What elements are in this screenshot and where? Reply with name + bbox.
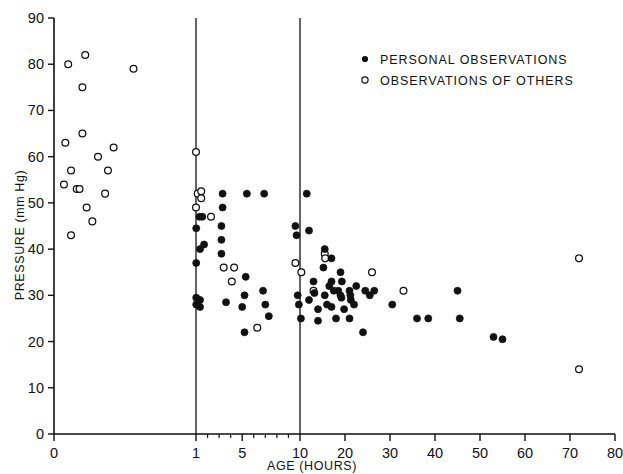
data-point-personal bbox=[311, 290, 318, 297]
data-point-personal bbox=[218, 250, 225, 257]
data-point-other bbox=[298, 269, 305, 276]
x-tick-label: 5 bbox=[238, 445, 246, 461]
legend: PERSONAL OBSERVATIONS OBSERVATIONS OF OT… bbox=[362, 53, 574, 88]
y-tick-label: 90 bbox=[28, 10, 44, 26]
data-point-other bbox=[83, 204, 90, 211]
y-axis-ticks: 0102030405060708090 bbox=[28, 10, 54, 442]
data-point-other bbox=[61, 181, 68, 188]
y-tick-label: 80 bbox=[28, 56, 44, 72]
y-tick-label: 60 bbox=[28, 149, 44, 165]
data-point-other bbox=[369, 269, 376, 276]
data-point-personal bbox=[243, 190, 250, 197]
x-tick-label: 60 bbox=[517, 445, 533, 461]
data-point-personal bbox=[337, 269, 344, 276]
data-point-personal bbox=[197, 296, 204, 303]
data-point-personal bbox=[371, 287, 378, 294]
x-axis-ticks: 0151020304050607080 bbox=[50, 434, 623, 461]
data-point-personal bbox=[292, 223, 299, 230]
data-point-personal bbox=[241, 329, 248, 336]
data-point-personal bbox=[328, 278, 335, 285]
x-tick-label: 50 bbox=[472, 445, 488, 461]
y-axis-label: PRESSURE (mm Hg) bbox=[13, 170, 27, 300]
data-point-personal bbox=[239, 303, 246, 310]
data-point-personal bbox=[320, 264, 327, 271]
data-point-other bbox=[110, 144, 117, 151]
legend-label-personal: PERSONAL OBSERVATIONS bbox=[380, 53, 568, 67]
data-point-personal bbox=[389, 301, 396, 308]
data-point-personal bbox=[193, 225, 200, 232]
data-point-other bbox=[292, 260, 299, 267]
data-point-other bbox=[220, 264, 227, 271]
data-point-personal bbox=[303, 190, 310, 197]
data-point-personal bbox=[490, 333, 497, 340]
data-point-other bbox=[79, 84, 86, 91]
data-point-personal bbox=[306, 296, 313, 303]
data-point-personal bbox=[346, 315, 353, 322]
data-point-personal bbox=[328, 303, 335, 310]
x-tick-label: 1 bbox=[192, 445, 200, 461]
data-point-personal bbox=[193, 259, 200, 266]
data-point-personal bbox=[456, 315, 463, 322]
legend-label-others: OBSERVATIONS OF OTHERS bbox=[380, 74, 574, 88]
data-point-personal bbox=[219, 190, 226, 197]
data-point-personal bbox=[242, 273, 249, 280]
data-point-personal bbox=[328, 255, 335, 262]
data-point-personal bbox=[201, 241, 208, 248]
y-tick-label: 20 bbox=[28, 334, 44, 350]
data-point-other bbox=[576, 366, 583, 373]
data-point-personal bbox=[306, 227, 313, 234]
data-point-personal bbox=[321, 246, 328, 253]
data-point-personal bbox=[223, 299, 230, 306]
data-point-other bbox=[65, 61, 72, 68]
x-tick-label: 10 bbox=[292, 445, 308, 461]
x-tick-label: 40 bbox=[427, 445, 443, 461]
data-point-personal bbox=[315, 306, 322, 313]
data-point-personal bbox=[219, 204, 226, 211]
data-point-personal bbox=[261, 190, 268, 197]
x-tick-label: 0 bbox=[50, 445, 58, 461]
data-point-personal bbox=[260, 287, 267, 294]
data-point-personal bbox=[310, 278, 317, 285]
data-point-personal bbox=[218, 236, 225, 243]
y-tick-label: 30 bbox=[28, 287, 44, 303]
data-point-personal bbox=[338, 278, 345, 285]
data-point-personal bbox=[295, 301, 302, 308]
data-point-personal bbox=[353, 283, 360, 290]
region-dividers bbox=[196, 18, 300, 434]
data-point-personal bbox=[351, 301, 358, 308]
data-point-other bbox=[198, 195, 205, 202]
data-point-other bbox=[400, 287, 407, 294]
data-point-personal bbox=[333, 315, 340, 322]
y-tick-label: 50 bbox=[28, 195, 44, 211]
y-tick-label: 0 bbox=[36, 426, 44, 442]
data-point-other bbox=[254, 324, 261, 331]
x-axis-label: AGE (HOURS) bbox=[267, 459, 357, 473]
data-point-personal bbox=[414, 315, 421, 322]
data-point-other bbox=[105, 167, 112, 174]
data-point-personal bbox=[341, 306, 348, 313]
data-point-personal bbox=[297, 315, 304, 322]
data-point-personal bbox=[454, 287, 461, 294]
figure-container: PRESSURE (mm Hg) AGE (HOURS) 01020304050… bbox=[0, 0, 623, 474]
data-point-personal bbox=[425, 315, 432, 322]
data-point-personal bbox=[197, 303, 204, 310]
data-point-personal bbox=[499, 336, 506, 343]
data-point-personal bbox=[293, 232, 300, 239]
series-observations-of-others bbox=[61, 52, 583, 373]
data-point-other bbox=[68, 167, 75, 174]
data-point-other bbox=[130, 65, 137, 72]
data-point-personal bbox=[241, 292, 248, 299]
data-point-other bbox=[193, 149, 200, 156]
x-tick-label: 30 bbox=[382, 445, 398, 461]
data-point-personal bbox=[338, 294, 345, 301]
data-point-personal bbox=[262, 301, 269, 308]
series-personal-observations bbox=[193, 190, 506, 343]
data-point-other bbox=[208, 213, 215, 220]
data-point-other bbox=[89, 218, 96, 225]
x-tick-label: 20 bbox=[337, 445, 353, 461]
data-point-other bbox=[82, 52, 89, 59]
data-point-personal bbox=[315, 317, 322, 324]
data-point-personal bbox=[199, 213, 206, 220]
open-circle-icon bbox=[362, 77, 368, 83]
data-point-other bbox=[62, 139, 69, 146]
